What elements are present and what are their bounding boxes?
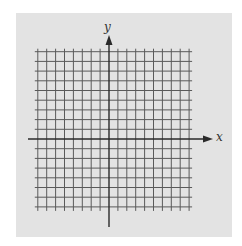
x-axis-arrow-icon <box>203 136 213 143</box>
grid-lines <box>35 49 192 211</box>
y-axis-arrow-icon <box>106 35 113 45</box>
x-axis-label: x <box>216 130 223 144</box>
y-axis-label: y <box>103 20 111 34</box>
coordinate-plane: x y <box>0 0 242 246</box>
